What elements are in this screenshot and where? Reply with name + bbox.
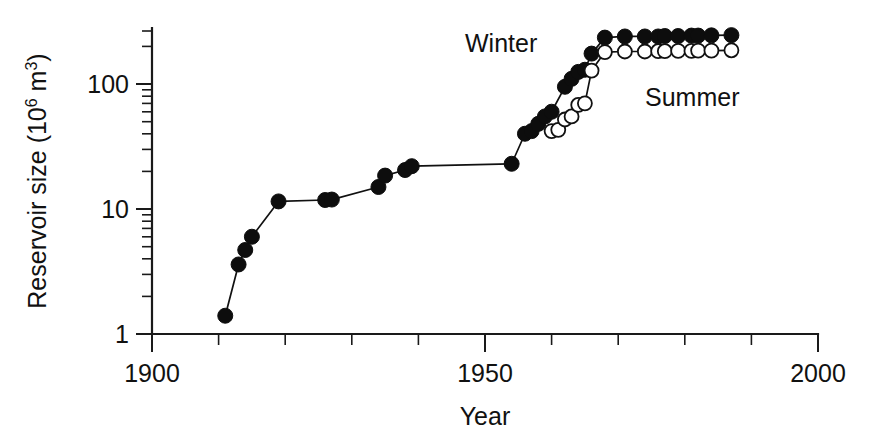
series-annotation-summer: Summer bbox=[645, 83, 739, 111]
data-point bbox=[637, 29, 652, 44]
x-tick-label-1950: 1950 bbox=[457, 359, 513, 387]
y-tick-label-1: 1 bbox=[115, 320, 129, 348]
axes-group bbox=[136, 28, 818, 352]
data-point bbox=[324, 192, 339, 207]
data-point bbox=[657, 29, 672, 44]
chart-figure: 1 10 100 1900 1950 2000 Year Reservoir s… bbox=[0, 0, 884, 434]
data-point bbox=[618, 44, 632, 58]
svg-text:Reservoir size (106 m3): Reservoir size (106 m3) bbox=[23, 53, 51, 308]
y-axis-title-exponent-6: 6 bbox=[23, 98, 40, 107]
y-tick-label-100: 100 bbox=[87, 70, 129, 98]
y-axis-title-part2: m bbox=[23, 71, 51, 99]
data-point bbox=[231, 257, 246, 272]
data-point bbox=[658, 44, 672, 58]
data-point bbox=[544, 104, 559, 119]
data-point bbox=[585, 64, 599, 78]
data-point bbox=[638, 44, 652, 58]
data-point bbox=[724, 43, 738, 57]
data-point bbox=[724, 28, 739, 43]
y-axis-title-exponent-3: 3 bbox=[23, 62, 40, 71]
series-layer bbox=[218, 28, 739, 324]
reservoir-size-line-chart: 1 10 100 1900 1950 2000 Year Reservoir s… bbox=[0, 0, 884, 434]
series-line-winter bbox=[225, 35, 731, 316]
x-tick-label-2000: 2000 bbox=[790, 359, 846, 387]
data-point bbox=[617, 29, 632, 44]
data-point bbox=[218, 308, 233, 323]
y-axis-title-part3: ) bbox=[23, 53, 51, 61]
data-point bbox=[271, 194, 286, 209]
series-markers-winter bbox=[218, 28, 739, 324]
x-tick-label-1900: 1900 bbox=[124, 359, 180, 387]
data-point bbox=[704, 28, 719, 43]
data-point bbox=[671, 44, 685, 58]
data-point bbox=[238, 242, 253, 257]
data-point bbox=[378, 168, 393, 183]
y-axis-title: Reservoir size (106 m3) bbox=[23, 53, 51, 308]
data-point bbox=[598, 45, 612, 59]
data-point bbox=[691, 44, 705, 58]
y-axis-title-part1: Reservoir size (10 bbox=[23, 107, 51, 308]
data-point bbox=[704, 44, 718, 58]
series-annotation-winter: Winter bbox=[465, 29, 537, 57]
data-point bbox=[671, 29, 686, 44]
y-axis-minor-ticks bbox=[142, 31, 152, 296]
data-point bbox=[404, 159, 419, 174]
x-axis-title: Year bbox=[460, 402, 511, 430]
y-tick-label-10: 10 bbox=[101, 195, 129, 223]
data-point bbox=[504, 156, 519, 171]
data-point bbox=[244, 229, 259, 244]
data-point bbox=[597, 30, 612, 45]
x-axis-major-ticks bbox=[152, 334, 818, 352]
data-point bbox=[691, 28, 706, 43]
data-point bbox=[578, 96, 592, 110]
data-point bbox=[584, 46, 599, 61]
